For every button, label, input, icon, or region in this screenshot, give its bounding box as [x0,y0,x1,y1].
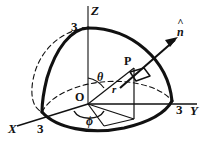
y-axis-tick-label: 3 [176,103,183,116]
x-axis-tick-label: 3 [37,122,44,135]
x-axis-label: X [8,122,17,135]
radius-line-OP [88,68,134,104]
equator-front-solid [42,101,172,131]
theta-label: θ [97,71,103,83]
projection-edge-base [104,119,134,126]
equator-back-dashed [42,81,172,112]
point-p-label: P [124,55,131,67]
hemisphere-spherical-coordinates-figure: Z 3 Y 3 X 3 O P r θ ϕ n [0,0,205,142]
normal-vector-label: n [177,26,184,38]
y-axis-label: Y [190,104,198,117]
z-axis-label: Z [91,4,99,17]
phi-label: ϕ [86,115,93,127]
projection-edge-origin-to-foot [88,104,134,119]
z-axis-tick-label: 3 [71,20,78,33]
origin-label: O [75,91,84,103]
radius-label: r [112,84,116,95]
normal-vector-label-text: n [177,26,184,38]
